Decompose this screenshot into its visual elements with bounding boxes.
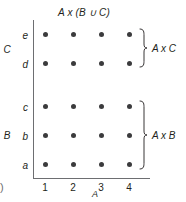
x-tick-label-1: 1	[38, 182, 52, 193]
page-title: A x (B ∪ C)	[0, 7, 168, 18]
vertical-axis-line	[33, 20, 34, 179]
brace-label-a-cross-b: A x B	[152, 130, 176, 141]
data-point	[43, 104, 48, 109]
set-label-C: C	[0, 44, 14, 55]
data-point	[99, 61, 104, 66]
data-point	[43, 162, 48, 167]
y-tick-label-e: e	[14, 30, 28, 41]
data-point	[127, 133, 132, 138]
x-axis-label: A	[88, 189, 102, 199]
figure-canvas: A x (B ∪ C) ) e d c b a C B 1 2 3 4 A A …	[0, 0, 186, 202]
data-point	[127, 162, 132, 167]
set-label-B: B	[0, 130, 14, 141]
data-point	[99, 162, 104, 167]
horizontal-axis-line	[33, 178, 150, 179]
data-point	[99, 104, 104, 109]
brace-label-a-cross-c: A x C	[152, 43, 176, 54]
data-point	[127, 104, 132, 109]
data-point	[71, 61, 76, 66]
data-point	[43, 133, 48, 138]
data-point	[127, 61, 132, 66]
x-tick-label-2: 2	[66, 182, 80, 193]
y-tick-label-c: c	[14, 102, 28, 113]
data-point	[71, 104, 76, 109]
data-point	[127, 32, 132, 37]
y-tick-label-d: d	[14, 59, 28, 70]
data-point	[99, 133, 104, 138]
y-tick-label-b: b	[14, 131, 28, 142]
corner-paren-mark: )	[0, 182, 4, 193]
y-tick-label-a: a	[14, 160, 28, 171]
x-tick-label-4: 4	[122, 182, 136, 193]
data-point	[71, 32, 76, 37]
data-point	[71, 162, 76, 167]
data-point	[43, 32, 48, 37]
brace-a-cross-c	[139, 28, 148, 68]
data-point	[43, 61, 48, 66]
data-point	[71, 133, 76, 138]
data-point	[99, 32, 104, 37]
brace-a-cross-b	[139, 100, 148, 170]
